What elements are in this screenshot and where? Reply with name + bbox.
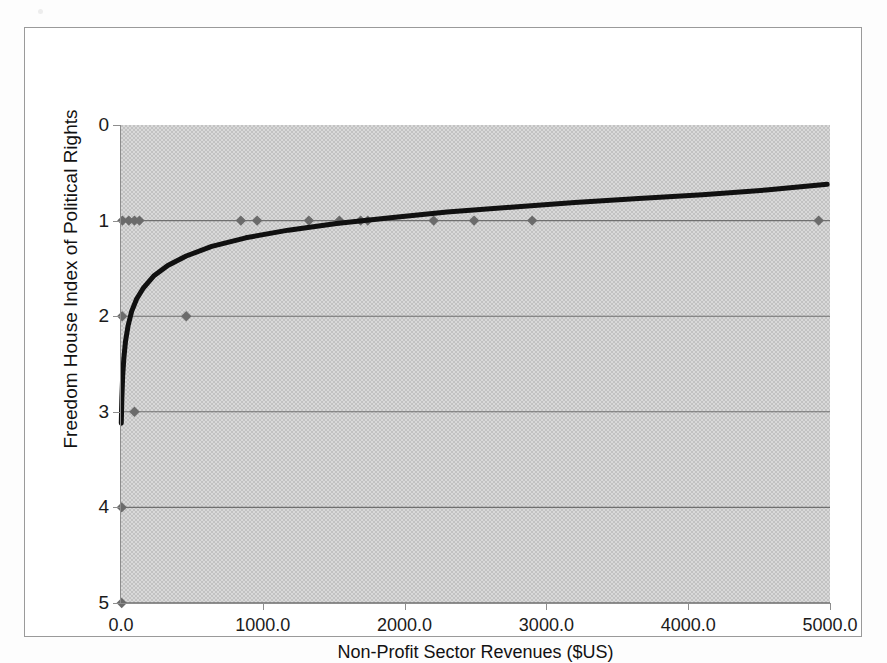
x-tick-mark	[405, 603, 406, 610]
y-tick-mark	[113, 603, 121, 604]
x-axis-line	[120, 603, 831, 604]
y-tick-label: 5	[69, 593, 109, 612]
y-tick-mark	[113, 221, 121, 222]
x-tick-label: 5000.0	[770, 616, 887, 634]
x-tick-mark	[688, 603, 689, 610]
plot-area	[121, 125, 830, 603]
data-point-marker	[252, 215, 262, 225]
data-point-marker	[469, 215, 479, 225]
data-point-marker	[236, 215, 246, 225]
chart-frame: 012345 0.01000.02000.03000.04000.05000.0…	[24, 27, 862, 637]
x-tick-mark	[546, 603, 547, 610]
x-tick-label: 1000.0	[203, 616, 323, 634]
figure-page: 012345 0.01000.02000.03000.04000.05000.0…	[0, 0, 887, 663]
y-axis-line	[120, 125, 121, 604]
y-tick-mark	[113, 125, 121, 126]
y-tick-mark	[113, 507, 121, 508]
x-tick-label: 3000.0	[486, 616, 606, 634]
data-point-marker	[181, 311, 191, 321]
x-tick-label: 4000.0	[628, 616, 748, 634]
y-tick-label: 4	[69, 497, 109, 516]
y-axis-title: Freedom House Index of Political Rights	[60, 59, 82, 499]
data-point-marker	[428, 215, 438, 225]
scan-speck	[38, 9, 43, 14]
x-tick-mark	[263, 603, 264, 610]
plot-canvas	[121, 125, 830, 603]
x-axis-title: Non-Profit Sector Revenues ($US)	[121, 642, 830, 663]
data-point-marker	[304, 215, 314, 225]
data-point-marker	[813, 215, 823, 225]
y-tick-mark	[113, 412, 121, 413]
x-tick-label: 0.0	[61, 616, 181, 634]
x-tick-mark	[830, 603, 831, 610]
x-tick-label: 2000.0	[345, 616, 465, 634]
data-point-marker	[129, 407, 139, 417]
data-point-marker	[527, 215, 537, 225]
y-tick-mark	[113, 316, 121, 317]
